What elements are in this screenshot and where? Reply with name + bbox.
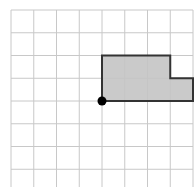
shaded-polygon bbox=[102, 56, 193, 102]
vertex-dot bbox=[98, 97, 107, 106]
grid-diagram bbox=[0, 0, 196, 187]
